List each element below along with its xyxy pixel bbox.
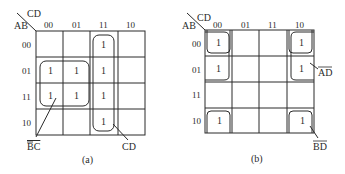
cell-value: 1 [299,63,304,74]
row-header: 10 [22,118,32,128]
col-header: 10 [295,20,305,30]
caption-b: (b) [251,153,263,165]
cell-value: 1 [74,65,79,76]
group-label-bd: BD [313,141,327,152]
grid [36,31,145,135]
kmap-b: CD AB 00 01 11 10 00 01 11 10 1 1 1 1 1 … [182,12,332,165]
leader-line-cd [113,124,128,140]
cell-value: 1 [216,37,221,48]
cell-value: 1 [101,116,106,127]
cell-value: 1 [101,65,106,76]
row-header: 11 [22,92,31,102]
group-label-bc: BC [27,141,41,152]
cell-value: 1 [217,115,222,126]
kmap-a: CD AB 00 01 11 10 00 01 11 10 1 1 1 1 1 … [14,8,145,166]
row-var-label: AB [182,20,196,31]
row-header: 11 [192,90,201,100]
col-header: 11 [268,20,277,30]
row-var-label: AB [14,20,28,31]
col-header: 01 [241,20,250,30]
row-header: 00 [192,39,202,49]
col-header: 00 [213,20,223,30]
row-header: 01 [192,65,201,75]
cell-value: 1 [48,65,53,76]
col-header: 10 [126,20,136,30]
row-header: 01 [22,66,31,76]
cell-value: 1 [101,39,106,50]
group-label-cd: CD [122,141,136,152]
row-header: 10 [192,116,202,126]
col-var-label: CD [27,8,41,19]
col-header: 00 [44,20,54,30]
col-header: 01 [72,20,81,30]
row-header: 00 [22,40,32,50]
caption-a: (a) [82,154,93,166]
karnaugh-maps-figure: CD AB 00 01 11 10 00 01 11 10 1 1 1 1 1 … [0,0,345,174]
col-header: 11 [99,20,108,30]
cell-value: 1 [48,90,53,101]
col-var-label: CD [197,12,211,23]
cell-value: 1 [101,90,106,101]
cell-value: 1 [216,63,221,74]
cell-value: 1 [74,90,79,101]
cell-value: 1 [300,115,305,126]
group-label-ad: AD [318,67,332,78]
leader-line-bc [36,98,56,137]
cell-value: 1 [299,37,304,48]
